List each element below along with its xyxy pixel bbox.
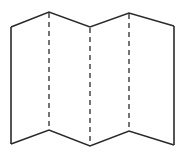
- folded-paper-diagram: [0, 0, 183, 156]
- folded-paper: [11, 12, 174, 146]
- top-edge: [11, 12, 174, 27]
- bottom-edge: [11, 130, 174, 146]
